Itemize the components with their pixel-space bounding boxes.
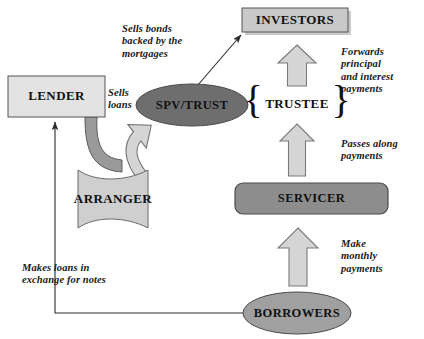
node-servicer[interactable]: SERVICER [235, 183, 388, 214]
node-spv-trust[interactable]: SPV/TRUST [136, 84, 248, 126]
node-label-servicer: SERVICER [278, 191, 346, 205]
node-label-trustee: TRUSTEE [265, 96, 329, 111]
brace-left-icon: { [243, 77, 262, 122]
securitization-diagram: ARRANGER LENDER INVESTORS SPV/TRUST { TR… [0, 0, 424, 339]
node-label-lender: LENDER [28, 88, 85, 103]
annotation-passes-along: Passes along payments [341, 138, 398, 163]
node-label-arranger: ARRANGER [74, 191, 153, 206]
annotation-makes-loans: Makes loans in exchange for notes [22, 262, 106, 287]
annotation-make-monthly: Make monthly payments [341, 238, 383, 275]
node-arranger: ARRANGER [74, 170, 153, 228]
annotation-forwards-principal: Forwards principal and interest payments [341, 46, 424, 96]
node-lender[interactable]: LENDER [8, 76, 105, 117]
block-arrow-trustee-to-investors [278, 45, 316, 86]
annotation-sells-bonds: Sells bonds backed by the mortgages [122, 23, 182, 60]
node-label-borrowers: BORROWERS [254, 306, 340, 320]
node-label-spv-trust: SPV/TRUST [156, 98, 229, 112]
node-label-investors: INVESTORS [256, 12, 335, 27]
block-arrow-borrowers-to-servicer [278, 228, 318, 286]
node-borrowers[interactable]: BORROWERS [243, 292, 351, 334]
block-arrow-servicer-to-trustee [280, 124, 314, 176]
node-investors[interactable]: INVESTORS [242, 8, 351, 35]
annotation-sells-loans: Sells loans [108, 87, 132, 112]
